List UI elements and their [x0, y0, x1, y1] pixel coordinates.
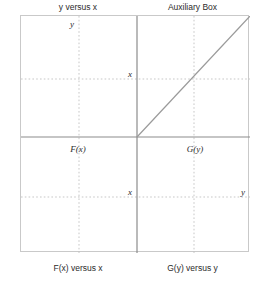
caption-bottom-right: G(y) versus y [136, 260, 249, 276]
caption-top-right: Auxiliary Box [136, 0, 249, 15]
diagonal-identity-line [137, 16, 250, 137]
plot-graphics [21, 16, 250, 253]
label-y-upper-left: y [70, 20, 74, 29]
caption-top-left: y versus x [20, 0, 136, 15]
caption-bottom-left: F(x) versus x [20, 260, 136, 276]
plot-box [20, 15, 249, 252]
label-f-of-x: F(x) [70, 145, 86, 154]
label-g-of-y: G(y) [187, 145, 204, 154]
label-x-upper: x [128, 70, 132, 79]
label-y-lower-right: y [241, 188, 245, 197]
label-x-lower: x [128, 188, 132, 197]
auxiliary-box-figure: y versus x Auxiliary Box y x F(x) G(y) x… [0, 0, 261, 282]
